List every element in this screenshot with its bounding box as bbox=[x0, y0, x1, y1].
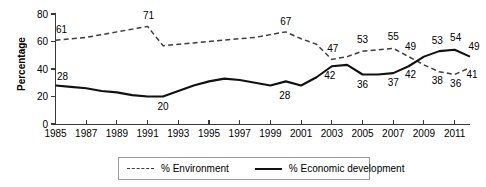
data-point-label: 36 bbox=[357, 79, 369, 90]
data-point-label: 49 bbox=[468, 41, 480, 52]
x-tick-label: 1997 bbox=[229, 128, 252, 139]
y-tick-label: 60 bbox=[37, 36, 49, 47]
x-tick-label: 2007 bbox=[382, 128, 405, 139]
plot-area: 020406080 198519871989199119931995199719… bbox=[0, 0, 486, 150]
legend-item-economic-development[interactable]: % Economic development bbox=[255, 158, 405, 179]
line-chart: Percentage 020406080 1985198719891991199… bbox=[0, 0, 486, 187]
data-point-label: 42 bbox=[405, 69, 417, 80]
data-point-label: 42 bbox=[324, 70, 336, 81]
y-tick-label: 20 bbox=[37, 91, 49, 102]
data-point-label: 28 bbox=[57, 71, 69, 82]
data-point-label: 53 bbox=[432, 35, 444, 46]
data-point-label: 37 bbox=[388, 77, 400, 88]
x-tick-label: 1993 bbox=[167, 128, 190, 139]
data-point-label: 67 bbox=[280, 16, 292, 27]
data-point-label: 20 bbox=[157, 101, 169, 112]
data-point-label: 71 bbox=[143, 10, 155, 21]
series-lines bbox=[56, 26, 471, 96]
data-point-label: 41 bbox=[466, 69, 478, 80]
x-tick-label: 2009 bbox=[413, 128, 436, 139]
x-tick-label: 2005 bbox=[351, 128, 374, 139]
x-tick-label: 1989 bbox=[106, 128, 129, 139]
x-tick-marks bbox=[56, 120, 455, 125]
data-point-label: 61 bbox=[56, 24, 68, 35]
y-tick-label: 80 bbox=[37, 9, 49, 20]
x-axis: 1985198719891991199319951997199920012003… bbox=[44, 120, 470, 139]
legend-swatch-dashed-icon bbox=[127, 168, 154, 169]
y-axis: 020406080 bbox=[37, 9, 56, 130]
data-point-label: 55 bbox=[388, 31, 400, 42]
x-tick-label: 1985 bbox=[44, 128, 67, 139]
x-tick-label: 2011 bbox=[444, 128, 466, 139]
legend-label-economic-development: % Economic development bbox=[289, 164, 405, 174]
x-tick-label: 1999 bbox=[259, 128, 282, 139]
data-point-label: 36 bbox=[450, 78, 462, 89]
data-point-label: 47 bbox=[327, 43, 339, 54]
data-point-label: 49 bbox=[405, 41, 417, 52]
data-point-label: 53 bbox=[357, 34, 369, 45]
x-tick-label: 1991 bbox=[136, 128, 159, 139]
data-point-label: 38 bbox=[432, 75, 444, 86]
legend-swatch-solid-icon bbox=[255, 168, 282, 170]
x-tick-label: 2003 bbox=[321, 128, 344, 139]
y-tick-label: 40 bbox=[37, 64, 49, 75]
x-tick-labels: 1985198719891991199319951997199920012003… bbox=[44, 128, 465, 139]
legend-item-environment[interactable]: % Environment bbox=[127, 158, 229, 179]
chart-legend: % Environment % Economic development bbox=[118, 157, 370, 180]
x-tick-label: 2001 bbox=[290, 128, 313, 139]
x-tick-label: 1987 bbox=[75, 128, 98, 139]
y-tick-labels: 020406080 bbox=[37, 9, 49, 130]
y-tick-marks bbox=[51, 14, 56, 124]
legend-label-environment: % Environment bbox=[161, 164, 229, 174]
data-point-label: 54 bbox=[450, 32, 462, 43]
x-tick-label: 1995 bbox=[198, 128, 221, 139]
data-point-label: 28 bbox=[279, 90, 291, 101]
